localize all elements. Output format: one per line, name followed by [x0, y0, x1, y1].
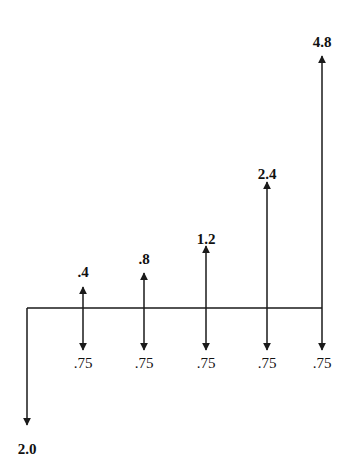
cash-flow-diagram: [0, 0, 355, 476]
initial-outflow-label: 2.0: [18, 442, 37, 457]
outflow-label: .75: [74, 356, 93, 371]
inflow-label: 2.4: [258, 167, 277, 182]
outflow-label: .75: [313, 356, 332, 371]
outflow-label: .75: [135, 356, 154, 371]
inflow-label: .4: [77, 265, 88, 280]
inflow-label: .8: [138, 252, 149, 267]
inflow-label: 1.2: [197, 232, 216, 247]
inflow-label: 4.8: [313, 35, 332, 50]
outflow-label: .75: [258, 356, 277, 371]
outflow-label: .75: [197, 356, 216, 371]
